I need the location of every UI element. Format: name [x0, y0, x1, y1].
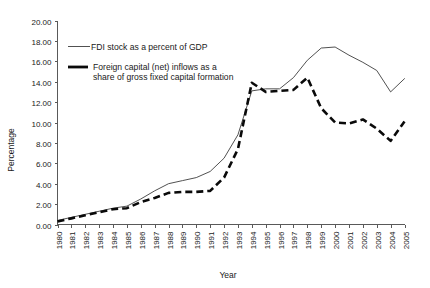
- x-axis-title: Year: [219, 270, 236, 280]
- y-tick-label: 2.00: [36, 201, 52, 210]
- y-tick-label: 16.00: [31, 58, 52, 67]
- y-axis-tick-labels: 0.002.004.006.008.0010.0012.0014.0016.00…: [31, 18, 52, 231]
- y-tick-label: 10.00: [31, 120, 52, 129]
- x-tick-label: 1997: [290, 231, 299, 249]
- x-tick-label: 2005: [402, 231, 411, 249]
- x-tick-label: 1994: [249, 231, 258, 249]
- y-tick-label: 12.00: [31, 99, 52, 108]
- y-tick-label: 20.00: [31, 18, 52, 27]
- legend-label-0: FDI stock as a percent of GDP: [91, 42, 208, 52]
- x-tick-label: 1991: [207, 231, 216, 249]
- legend-label-1-line1: Foreign capital (net) inflows as a: [93, 62, 217, 72]
- x-tick-label: 1987: [152, 231, 161, 249]
- x-tick-label: 1992: [221, 231, 230, 249]
- x-tick-label: 1996: [277, 231, 286, 249]
- y-tick-label: 6.00: [36, 160, 52, 169]
- x-tick-label: 1989: [179, 231, 188, 249]
- x-tick-label: 1982: [82, 231, 91, 249]
- x-tick-label: 1998: [304, 231, 313, 249]
- y-tick-label: 8.00: [36, 140, 52, 149]
- x-tick-label: 1990: [193, 231, 202, 249]
- x-tick-label: 2002: [360, 231, 369, 249]
- series-foreign-capital-inflows-line: [58, 78, 405, 222]
- legend-label-1-line2: share of gross fixed capital formation: [93, 72, 234, 82]
- x-tick-label: 1995: [263, 231, 272, 249]
- x-tick-label: 1984: [110, 231, 119, 249]
- y-tick-label: 4.00: [36, 181, 52, 190]
- line-chart: Percentage Year 0.002.004.006.008.0010.0…: [0, 0, 430, 288]
- x-tick-label: 1988: [166, 231, 175, 249]
- x-tick-label: 2004: [388, 231, 397, 249]
- x-tick-label: 1980: [55, 231, 64, 249]
- x-tick-label: 1983: [96, 231, 105, 249]
- y-tick-label: 0.00: [36, 222, 52, 231]
- x-tick-label: 1981: [68, 231, 77, 249]
- chart-container: Percentage Year 0.002.004.006.008.0010.0…: [0, 0, 430, 288]
- x-tick-label: 2003: [374, 231, 383, 249]
- x-tick-label: 1999: [318, 231, 327, 249]
- x-tick-label: 2000: [332, 231, 341, 249]
- x-tick-label: 2001: [346, 231, 355, 249]
- y-tick-label: 18.00: [31, 38, 52, 47]
- y-axis-title: Percentage: [6, 128, 16, 172]
- x-axis-tick-labels: 1980198119821983198419851986198719881989…: [55, 231, 411, 249]
- y-tick-label: 14.00: [31, 79, 52, 88]
- legend: FDI stock as a percent of GDP Foreign ca…: [68, 42, 234, 83]
- x-tick-label: 1986: [138, 231, 147, 249]
- x-tick-label: 1985: [124, 231, 133, 249]
- x-tick-label: 1993: [235, 231, 244, 249]
